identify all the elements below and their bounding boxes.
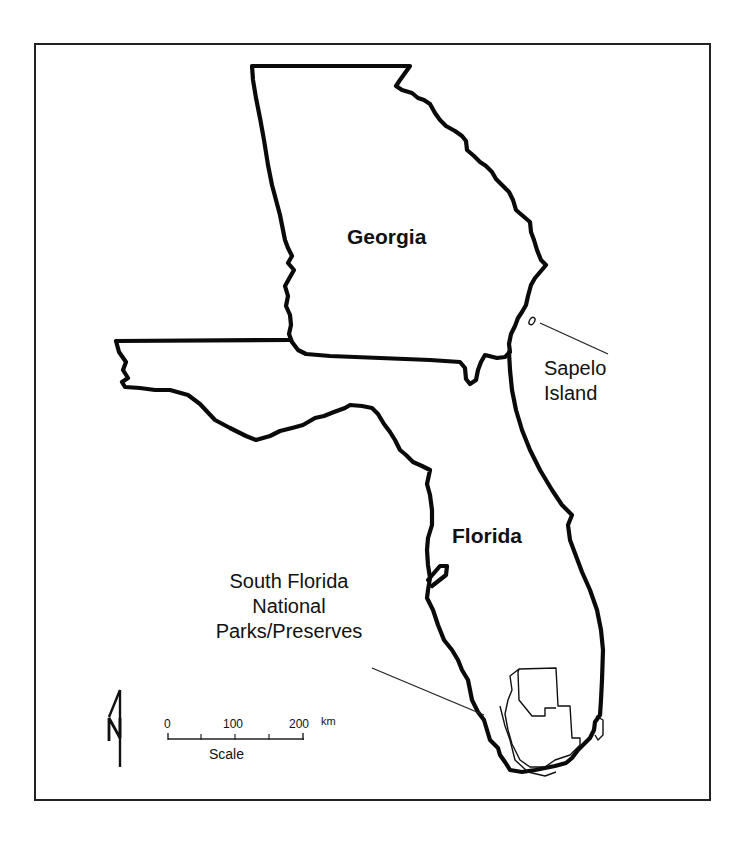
sapelo-leader-line	[540, 323, 608, 354]
scale-tick-100: 100	[223, 717, 243, 731]
label-sapelo-island: Sapelo Island	[544, 356, 606, 406]
label-sapelo-line2: Island	[544, 381, 606, 406]
label-georgia: Georgia	[347, 225, 426, 249]
label-parks-line1: South Florida	[189, 569, 389, 594]
label-parks-line3: Parks/Preserves	[189, 619, 389, 644]
scale-tick-0: 0	[164, 717, 171, 731]
florida-outline	[116, 340, 603, 772]
scale-caption: Scale	[209, 746, 244, 762]
label-sapelo-line1: Sapelo	[544, 356, 606, 381]
label-south-florida-parks: South Florida National Parks/Preserves	[189, 569, 389, 644]
label-florida: Florida	[452, 524, 522, 548]
scale-tick-200: 200	[289, 717, 309, 731]
north-arrow	[109, 690, 120, 767]
sapelo-island	[528, 316, 536, 325]
scale-bar	[168, 733, 304, 740]
parks-preserves-boundary	[505, 668, 603, 767]
label-parks-line2: National	[189, 594, 389, 619]
map-canvas	[0, 0, 748, 844]
scale-unit: km	[321, 715, 336, 727]
